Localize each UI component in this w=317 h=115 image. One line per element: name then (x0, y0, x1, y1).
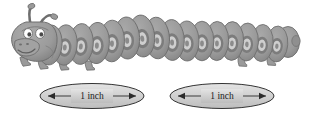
left-measure: 1 inch (40, 84, 144, 109)
caterpillar-body-segments (36, 14, 289, 66)
right-measure-label: 1 inch (210, 91, 234, 101)
caterpillar-illustration (12, 2, 301, 70)
snout (15, 39, 40, 56)
caterpillar-head (12, 2, 59, 61)
left-measure-label: 1 inch (80, 91, 104, 101)
caterpillar-measurement-figure: 1 inch 1 inch (0, 0, 317, 115)
figure-canvas: 1 inch 1 inch (0, 0, 317, 115)
right-measure: 1 inch (170, 84, 274, 109)
